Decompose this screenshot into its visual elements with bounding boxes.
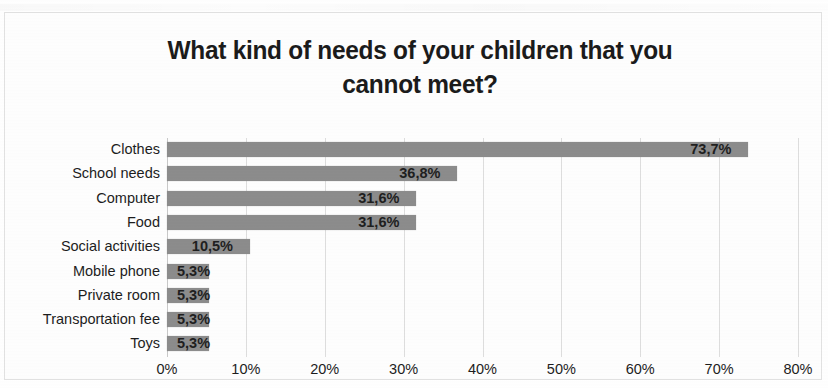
x-tick-80%: 80% [783, 361, 812, 377]
bar-value-label: 5,3% [177, 310, 210, 329]
x-tick-70%: 70% [705, 361, 734, 377]
bar-row[interactable]: 5,3% [167, 308, 798, 332]
bar-row[interactable]: 31,6% [167, 211, 798, 235]
bar-row[interactable]: 31,6% [167, 187, 798, 211]
scan-artifact [0, 4, 828, 11]
bar-series: 73,7%36,8%31,6%31,6%10,5%5,3%5,3%5,3%5,3… [167, 138, 798, 357]
category-label-mobile-phone: Mobile phone [5, 262, 160, 281]
bar-row[interactable]: 10,5% [167, 235, 798, 259]
x-tick-20%: 20% [310, 361, 339, 377]
gridline-80% [798, 138, 799, 357]
bar-row[interactable]: 36,8% [167, 162, 798, 186]
x-tick-40%: 40% [468, 361, 497, 377]
x-tick-30%: 30% [389, 361, 418, 377]
bar-value-label: 5,3% [177, 262, 210, 281]
bar-value-label: 31,6% [358, 189, 399, 208]
category-label-school-needs: School needs [5, 164, 160, 183]
x-tick-50%: 50% [547, 361, 576, 377]
bar-value-label: 5,3% [177, 334, 210, 353]
category-label-food: Food [5, 213, 160, 232]
category-label-clothes: Clothes [5, 140, 160, 159]
bar-row[interactable]: 73,7% [167, 138, 798, 162]
chart-title: What kind of needs of your children that… [115, 33, 726, 102]
x-tick-10%: 10% [231, 361, 260, 377]
category-label-transportation-fee: Transportation fee [5, 310, 160, 329]
plot-area: 73,7%36,8%31,6%31,6%10,5%5,3%5,3%5,3%5,3… [167, 138, 798, 357]
bar-row[interactable]: 5,3% [167, 260, 798, 284]
category-label-social-activities: Social activities [5, 237, 160, 256]
category-axis-labels: ClothesSchool needsComputerFoodSocial ac… [5, 138, 160, 357]
bar-row[interactable]: 5,3% [167, 332, 798, 356]
bar-value-label: 36,8% [399, 164, 440, 183]
bar-value-label: 73,7% [690, 140, 731, 159]
category-label-toys: Toys [5, 334, 160, 353]
bar-value-label: 10,5% [192, 237, 233, 256]
x-tick-0%: 0% [157, 361, 178, 377]
bar-row[interactable]: 5,3% [167, 284, 798, 308]
chart-title-line-2: cannot meet? [342, 69, 498, 99]
chart-frame: What kind of needs of your children that… [4, 12, 822, 380]
bar-value-label: 5,3% [177, 286, 210, 305]
bar-clothes[interactable] [167, 142, 748, 157]
category-label-computer: Computer [5, 189, 160, 208]
x-axis-labels: 0%10%20%30%40%50%60%70%80% [167, 361, 798, 385]
category-label-private-room: Private room [5, 286, 160, 305]
x-tick-60%: 60% [626, 361, 655, 377]
bar-value-label: 31,6% [358, 213, 399, 232]
chart-title-line-1: What kind of needs of your children that… [168, 35, 673, 65]
